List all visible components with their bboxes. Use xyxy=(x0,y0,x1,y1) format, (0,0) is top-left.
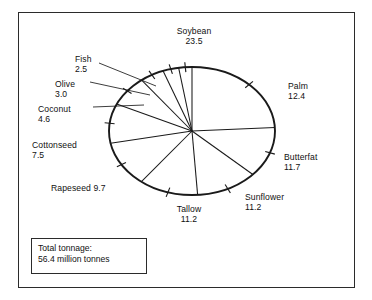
slice-label-palm-value: 12.4 xyxy=(288,91,340,101)
total-tonnage-box: Total tonnage: 56.4 million tonnes xyxy=(31,238,147,274)
slice-label-cottonseed-value: 7.5 xyxy=(32,150,102,160)
slice-label-olive-value: 3.0 xyxy=(55,89,101,99)
slice-label-rapeseed: Rapeseed 9.7 xyxy=(51,183,137,193)
total-tonnage-line-1: Total tonnage: xyxy=(38,243,146,254)
slice-label-olive-name: Olive xyxy=(55,79,101,89)
slice-label-cottonseed-name: Cottonseed xyxy=(32,140,102,150)
slice-label-tallow-name: Tallow xyxy=(163,204,215,214)
slice-label-tallow: Tallow 11.2 xyxy=(163,204,215,225)
slice-label-butterfat-name: Butterfat xyxy=(284,152,346,162)
slice-label-fish: Fish 2.5 xyxy=(75,54,117,75)
slice-label-rapeseed-name: Rapeseed xyxy=(51,183,93,193)
slice-label-fish-value: 2.5 xyxy=(75,64,117,74)
slice-label-butterfat: Butterfat 11.7 xyxy=(284,152,346,173)
slice-label-rapeseed-value: 9.7 xyxy=(93,183,105,193)
slice-label-sunflower-value: 11.2 xyxy=(245,202,311,212)
slice-label-coconut-name: Coconut xyxy=(38,104,100,114)
pie-geometry xyxy=(105,62,275,197)
slice-label-sunflower-name: Sunflower xyxy=(245,192,311,202)
slice-label-soybean: Soybean 23.5 xyxy=(163,26,225,47)
slice-label-fish-name: Fish xyxy=(75,54,117,64)
slice-label-coconut-value: 4.6 xyxy=(38,114,100,124)
total-tonnage-line-2: 56.4 million tonnes xyxy=(38,254,146,265)
slice-label-palm-name: Palm xyxy=(288,81,340,91)
slice-label-palm: Palm 12.4 xyxy=(288,81,340,102)
slice-label-soybean-name: Soybean xyxy=(163,26,225,36)
figure-container: Soybean 23.5 Palm 12.4 Butterfat 11.7 Su… xyxy=(0,0,372,300)
slice-label-soybean-value: 23.5 xyxy=(163,36,225,46)
slice-label-butterfat-value: 11.7 xyxy=(284,162,346,172)
slice-label-cottonseed: Cottonseed 7.5 xyxy=(32,140,102,161)
slice-label-olive: Olive 3.0 xyxy=(55,79,101,100)
slice-label-tallow-value: 11.2 xyxy=(163,214,215,224)
slice-label-sunflower: Sunflower 11.2 xyxy=(245,192,311,213)
slice-label-coconut: Coconut 4.6 xyxy=(38,104,100,125)
